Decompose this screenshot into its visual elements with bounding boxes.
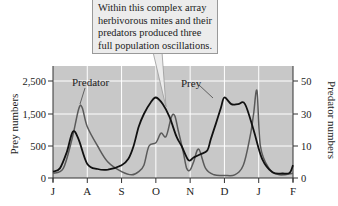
svg-text:A: A bbox=[83, 185, 91, 197]
svg-text:D: D bbox=[220, 185, 228, 197]
y-axis-right-label: Predator numbers bbox=[326, 70, 338, 170]
svg-text:N: N bbox=[186, 185, 194, 197]
svg-text:J: J bbox=[51, 185, 56, 197]
svg-text:J: J bbox=[257, 185, 262, 197]
svg-text:1,500: 1,500 bbox=[22, 109, 46, 120]
prey-annotation: Prey bbox=[181, 77, 202, 89]
predator-annotation: Predator bbox=[72, 76, 110, 88]
svg-text:O: O bbox=[152, 185, 160, 197]
callout-box: Within this complex array herbivorous mi… bbox=[92, 0, 218, 54]
svg-text:F: F bbox=[290, 185, 296, 197]
y-axis-left-label: Prey numbers bbox=[8, 84, 20, 164]
svg-text:10: 10 bbox=[301, 141, 312, 152]
svg-text:S: S bbox=[119, 185, 125, 197]
svg-text:50: 50 bbox=[301, 76, 312, 87]
svg-text:0: 0 bbox=[301, 173, 306, 184]
svg-text:500: 500 bbox=[30, 141, 46, 152]
svg-text:30: 30 bbox=[301, 109, 312, 120]
svg-text:2,500: 2,500 bbox=[22, 76, 46, 87]
svg-text:0: 0 bbox=[41, 173, 46, 184]
